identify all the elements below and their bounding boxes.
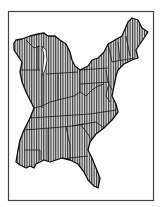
range-area [0,0,161,207]
range-map [0,0,161,207]
